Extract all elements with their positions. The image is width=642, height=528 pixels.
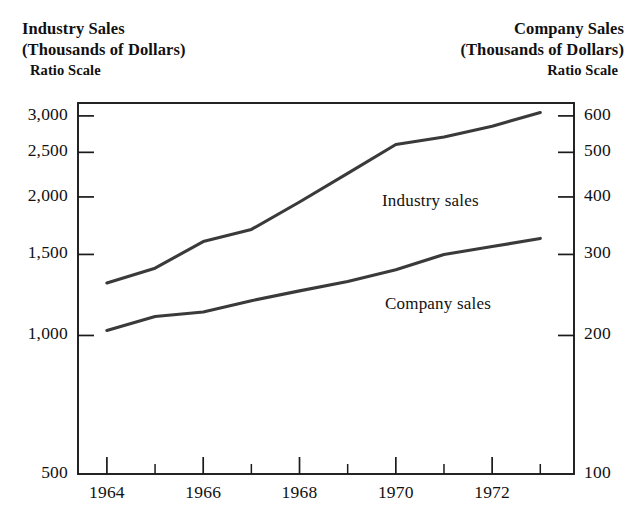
axis-frame	[78, 103, 574, 474]
y2-axis-tick-label: 500	[584, 140, 611, 161]
series-annotation-industry: Industry sales	[382, 191, 479, 211]
y2-axis-tick-label: 100	[584, 462, 611, 483]
y2-axis-tick-label: 300	[584, 242, 611, 263]
x-axis-tick-label: 1970	[356, 482, 436, 503]
x-axis-tick-label: 1966	[163, 482, 243, 503]
x-axis-tick-label: 1968	[260, 482, 340, 503]
y-axis-tick-label: 2,000	[28, 185, 68, 206]
y-axis-tick-label: 500	[41, 462, 68, 483]
x-axis-tick-label: 1972	[452, 482, 532, 503]
y2-axis-tick-label: 400	[584, 185, 611, 206]
x-axis-tick-label: 1964	[67, 482, 147, 503]
plot-border	[78, 103, 574, 474]
y-axis-tick-label: 3,000	[28, 104, 68, 125]
chart-figure: Industry Sales (Thousands of Dollars) Ra…	[0, 0, 642, 528]
y-axis-tick-label: 1,000	[28, 323, 68, 344]
series-annotation-company: Company sales	[385, 294, 491, 314]
y2-axis-tick-label: 200	[584, 323, 611, 344]
series-line-company-sales	[107, 238, 540, 330]
y-axis-tick-label: 2,500	[28, 140, 68, 161]
plot-canvas	[0, 0, 642, 528]
y2-axis-tick-label: 600	[584, 104, 611, 125]
tick-marks	[78, 116, 574, 474]
y-axis-tick-label: 1,500	[28, 242, 68, 263]
